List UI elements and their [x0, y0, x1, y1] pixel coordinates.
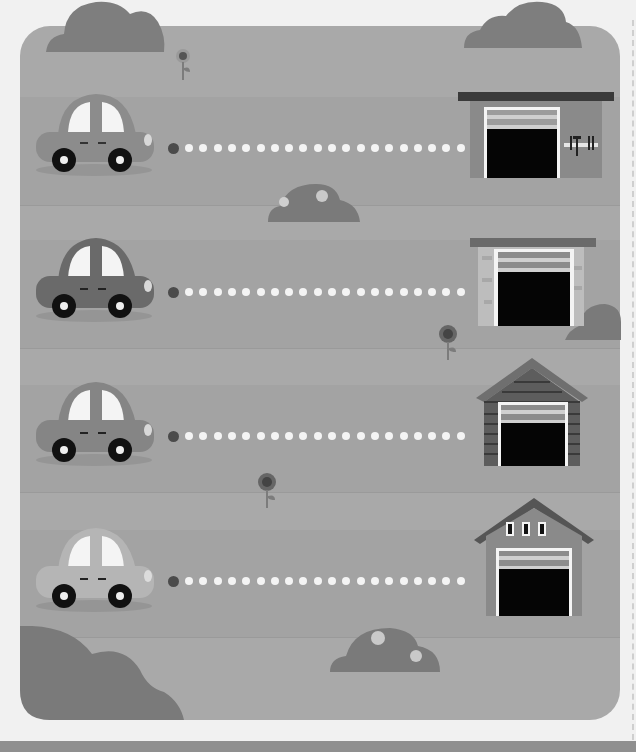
path-dot — [371, 577, 379, 585]
path-dot — [257, 432, 265, 440]
garage-3[interactable] — [474, 356, 594, 472]
path-dot — [242, 432, 250, 440]
path-dot — [299, 577, 307, 585]
path-dot — [428, 577, 436, 585]
car-1[interactable] — [32, 90, 158, 178]
path-dot — [428, 144, 436, 152]
path-dot — [414, 577, 422, 585]
path-dot — [314, 577, 322, 585]
path-dot — [414, 432, 422, 440]
path-dot — [357, 432, 365, 440]
path-dot — [414, 288, 422, 296]
path-dot — [342, 577, 350, 585]
path-dot — [328, 432, 336, 440]
path-dot — [442, 144, 450, 152]
path-dot — [357, 288, 365, 296]
path-dot — [228, 144, 236, 152]
path-dot — [299, 432, 307, 440]
path-dot — [271, 432, 279, 440]
path-dot — [457, 432, 465, 440]
path-dot — [185, 144, 193, 152]
start-dot[interactable] — [168, 576, 179, 587]
path-dot — [271, 144, 279, 152]
path-dot — [414, 144, 422, 152]
start-dot[interactable] — [168, 431, 179, 442]
path-dot — [442, 577, 450, 585]
garage-4[interactable] — [472, 496, 596, 618]
path-dot — [228, 577, 236, 585]
path-dot — [299, 288, 307, 296]
path-dot — [371, 144, 379, 152]
flower-icon — [257, 470, 277, 510]
path-dot — [257, 288, 265, 296]
path-dot — [328, 144, 336, 152]
cloud-icon — [44, 0, 166, 52]
car-4[interactable] — [32, 526, 158, 614]
path-dot — [328, 577, 336, 585]
path-dot — [285, 144, 293, 152]
divider — [20, 348, 620, 349]
path-dot — [299, 144, 307, 152]
path-dot — [385, 288, 393, 296]
path-dot — [271, 577, 279, 585]
path-dot — [228, 432, 236, 440]
path-dot — [285, 288, 293, 296]
cloud-icon — [462, 0, 584, 48]
bush-icon — [266, 180, 362, 222]
start-dot[interactable] — [168, 287, 179, 298]
path-dot — [314, 432, 322, 440]
path-dot — [385, 144, 393, 152]
path-dot — [442, 432, 450, 440]
path-dot — [199, 288, 207, 296]
trace-path-4[interactable] — [168, 576, 468, 586]
path-dot — [285, 577, 293, 585]
path-dot — [271, 288, 279, 296]
path-dot — [442, 288, 450, 296]
path-dot — [199, 144, 207, 152]
path-dot — [342, 432, 350, 440]
start-dot[interactable] — [168, 143, 179, 154]
path-dot — [185, 432, 193, 440]
path-dot — [428, 288, 436, 296]
path-dot — [242, 144, 250, 152]
path-dot — [371, 288, 379, 296]
divider — [20, 492, 620, 493]
car-2[interactable] — [32, 236, 158, 324]
path-dot — [257, 577, 265, 585]
bush-icon — [330, 624, 442, 672]
path-dot — [457, 288, 465, 296]
path-dot — [342, 288, 350, 296]
path-dot — [214, 288, 222, 296]
path-dot — [400, 432, 408, 440]
trace-path-1[interactable] — [168, 143, 468, 153]
path-dot — [314, 144, 322, 152]
path-dot — [185, 288, 193, 296]
trace-path-3[interactable] — [168, 431, 468, 441]
path-dot — [257, 144, 265, 152]
path-dot — [371, 432, 379, 440]
bush-icon — [20, 626, 184, 720]
path-dot — [328, 288, 336, 296]
path-dot — [400, 288, 408, 296]
path-dot — [400, 144, 408, 152]
path-dot — [385, 577, 393, 585]
path-dot — [342, 144, 350, 152]
path-dot — [199, 577, 207, 585]
path-dot — [457, 577, 465, 585]
path-dot — [185, 577, 193, 585]
path-dot — [242, 288, 250, 296]
trace-path-2[interactable] — [168, 287, 468, 297]
path-dot — [228, 288, 236, 296]
garage-2[interactable] — [470, 236, 600, 328]
path-dot — [242, 577, 250, 585]
path-dot — [314, 288, 322, 296]
car-3[interactable] — [32, 380, 158, 468]
path-dot — [400, 577, 408, 585]
path-dot — [285, 432, 293, 440]
path-dot — [357, 144, 365, 152]
bottom-strip — [0, 741, 636, 752]
cut-line — [632, 20, 634, 740]
path-dot — [214, 432, 222, 440]
flower-icon — [438, 322, 458, 362]
garage-1[interactable] — [458, 90, 616, 180]
